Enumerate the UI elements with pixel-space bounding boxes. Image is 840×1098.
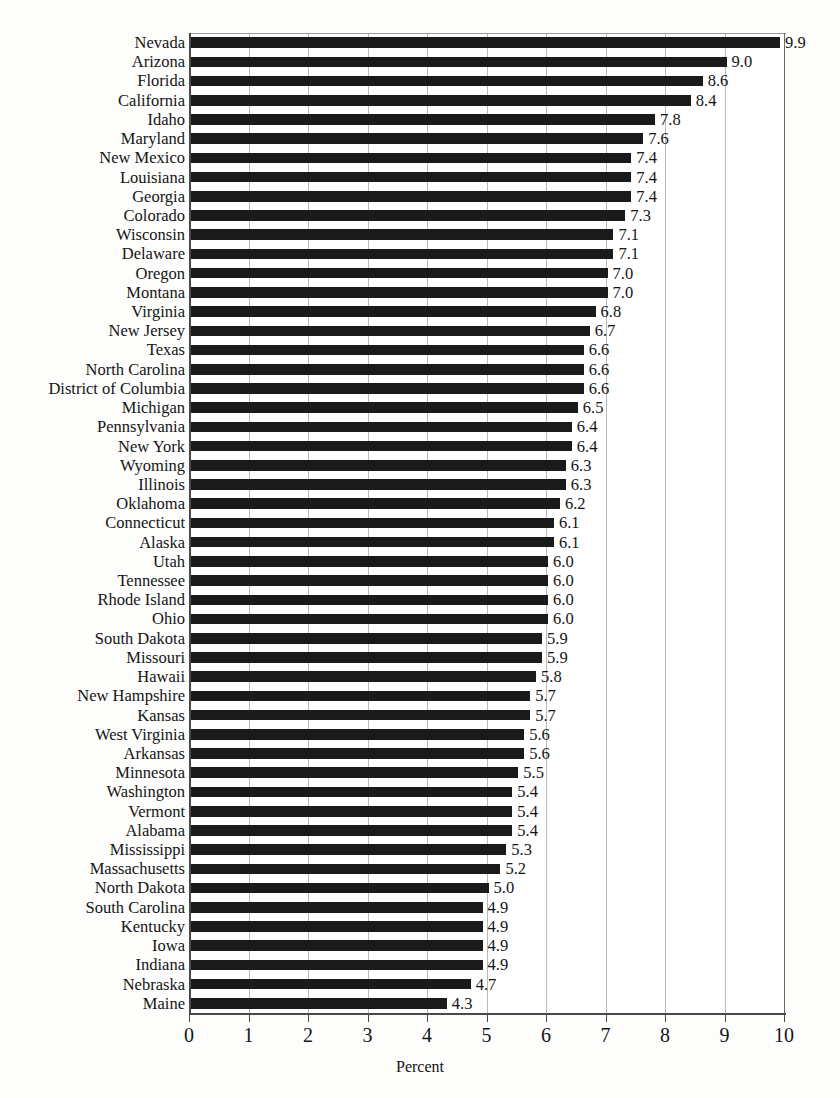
bar-value-label: 6.1 bbox=[554, 513, 580, 532]
bar-row: Iowa4.9 bbox=[0, 936, 840, 955]
category-label: Delaware bbox=[122, 244, 185, 263]
x-tick-label: 1 bbox=[229, 1023, 269, 1047]
bar bbox=[191, 864, 500, 875]
category-label: Georgia bbox=[132, 187, 185, 206]
x-tick-mark bbox=[308, 1015, 309, 1022]
bar-value-label: 5.3 bbox=[506, 840, 532, 859]
axis-right-line bbox=[784, 33, 785, 1014]
bar bbox=[191, 556, 548, 567]
x-tick-label: 2 bbox=[288, 1023, 328, 1047]
bar-row: Idaho7.8 bbox=[0, 110, 840, 129]
category-label: Pennsylvania bbox=[97, 417, 185, 436]
bar-value-label: 5.6 bbox=[524, 725, 550, 744]
bar bbox=[191, 441, 572, 452]
bar-value-label: 5.5 bbox=[518, 763, 544, 782]
bar bbox=[191, 710, 530, 721]
bar bbox=[191, 133, 643, 144]
bar-value-label: 5.4 bbox=[512, 802, 538, 821]
bar bbox=[191, 57, 727, 68]
bar-value-label: 4.3 bbox=[447, 994, 473, 1013]
category-label: Oregon bbox=[136, 264, 185, 283]
bar-value-label: 7.0 bbox=[608, 283, 634, 302]
bar bbox=[191, 767, 518, 778]
category-label: Connecticut bbox=[105, 513, 185, 532]
bar bbox=[191, 498, 560, 509]
x-tick-label: 10 bbox=[764, 1023, 804, 1047]
bar-row: Utah6.0 bbox=[0, 552, 840, 571]
category-label: Idaho bbox=[147, 110, 185, 129]
category-label: Utah bbox=[153, 552, 185, 571]
category-label: Missouri bbox=[126, 648, 185, 667]
bar-value-label: 7.1 bbox=[613, 244, 639, 263]
category-label: Kentucky bbox=[121, 917, 185, 936]
bar-value-label: 7.1 bbox=[613, 225, 639, 244]
bar bbox=[191, 748, 524, 759]
bar-row: North Dakota5.0 bbox=[0, 878, 840, 897]
bar bbox=[191, 595, 548, 606]
bar-row: Oklahoma6.2 bbox=[0, 494, 840, 513]
bar-value-label: 7.4 bbox=[631, 168, 657, 187]
bar-row: North Carolina6.6 bbox=[0, 360, 840, 379]
bar-value-label: 5.7 bbox=[530, 686, 556, 705]
category-label: Mississippi bbox=[110, 840, 185, 859]
bar-value-label: 6.0 bbox=[548, 571, 574, 590]
bar-value-label: 6.6 bbox=[584, 379, 610, 398]
x-tick-label: 6 bbox=[526, 1023, 566, 1047]
category-label: Wyoming bbox=[120, 456, 185, 475]
bar-value-label: 7.3 bbox=[625, 206, 651, 225]
bar-value-label: 8.4 bbox=[691, 91, 717, 110]
bar bbox=[191, 383, 584, 394]
bar-value-label: 6.0 bbox=[548, 552, 574, 571]
bar-row: Maine4.3 bbox=[0, 994, 840, 1013]
bar bbox=[191, 979, 471, 990]
category-label: South Dakota bbox=[95, 629, 185, 648]
bar bbox=[191, 460, 566, 471]
bar bbox=[191, 402, 578, 413]
bar bbox=[191, 287, 608, 298]
category-label: Rhode Island bbox=[97, 590, 185, 609]
bar bbox=[191, 671, 536, 682]
category-label: Illinois bbox=[138, 475, 185, 494]
bar-value-label: 5.9 bbox=[542, 629, 568, 648]
x-tick-label: 9 bbox=[705, 1023, 745, 1047]
bar-row: Nebraska4.7 bbox=[0, 975, 840, 994]
category-label: New York bbox=[118, 437, 185, 456]
bar bbox=[191, 153, 631, 164]
bar-row: Mississippi5.3 bbox=[0, 840, 840, 859]
bar bbox=[191, 518, 554, 529]
bar-row: West Virginia5.6 bbox=[0, 725, 840, 744]
bar-chart: Nevada9.9Arizona9.0Florida8.6California8… bbox=[0, 0, 840, 1098]
category-label: Tennessee bbox=[117, 571, 185, 590]
bar-value-label: 6.8 bbox=[596, 302, 622, 321]
category-label: New Mexico bbox=[99, 148, 185, 167]
category-label: Colorado bbox=[124, 206, 185, 225]
bar-row: Kentucky4.9 bbox=[0, 917, 840, 936]
bar-row: Tennessee6.0 bbox=[0, 571, 840, 590]
category-label: District of Columbia bbox=[48, 379, 185, 398]
category-label: Oklahoma bbox=[116, 494, 185, 513]
bar bbox=[191, 787, 512, 798]
bar-row: Vermont5.4 bbox=[0, 802, 840, 821]
bar-value-label: 6.2 bbox=[560, 494, 586, 513]
bar bbox=[191, 364, 584, 375]
bar-row: Pennsylvania6.4 bbox=[0, 417, 840, 436]
bar-value-label: 9.0 bbox=[727, 52, 753, 71]
bar bbox=[191, 537, 554, 548]
category-label: Nebraska bbox=[123, 975, 185, 994]
bar-row: California8.4 bbox=[0, 91, 840, 110]
x-tick-mark bbox=[784, 1015, 785, 1022]
bar-row: Virginia6.8 bbox=[0, 302, 840, 321]
bar bbox=[191, 172, 631, 183]
x-tick-mark bbox=[368, 1015, 369, 1022]
bar-row: Hawaii5.8 bbox=[0, 667, 840, 686]
bar-value-label: 6.0 bbox=[548, 609, 574, 628]
bar bbox=[191, 691, 530, 702]
category-label: Washington bbox=[107, 782, 185, 801]
bar-value-label: 5.4 bbox=[512, 821, 538, 840]
category-label: Maine bbox=[143, 994, 185, 1013]
category-label: Massachusetts bbox=[90, 859, 185, 878]
bar bbox=[191, 575, 548, 586]
x-tick-label: 0 bbox=[169, 1023, 209, 1047]
bar-row: Nevada9.9 bbox=[0, 33, 840, 52]
bar bbox=[191, 883, 489, 894]
